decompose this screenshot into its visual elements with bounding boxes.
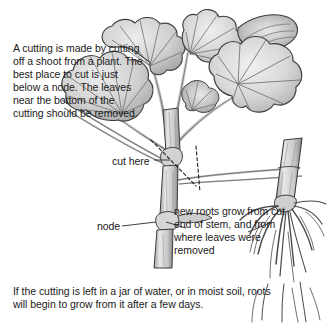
intro-paragraph: A cutting is made by cutting off a shoot… [13,42,143,121]
node-label: node [97,220,120,233]
leaf-behind-stem [182,81,219,113]
roots-note: new roots grow from cut end of stem, and… [174,205,294,257]
bottom-note: If the cutting is left in a jar of water… [13,285,283,311]
propagation-diagram-page: A cutting is made by cutting off a shoot… [0,0,328,323]
node-leader [122,222,156,226]
cut-line-vertical [196,146,200,192]
leaf-right-large [209,37,302,113]
cut-here-label: cut here [112,155,150,168]
